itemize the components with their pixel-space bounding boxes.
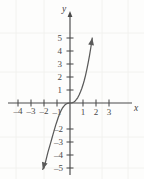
y-tick-label-3: 3 bbox=[58, 59, 63, 69]
x-tick-label-3: 3 bbox=[107, 107, 112, 117]
x-tick-label-neg3: –3 bbox=[26, 106, 37, 116]
y-tick-label-neg4: –4 bbox=[53, 150, 64, 160]
y-tick-label-1: 1 bbox=[58, 85, 63, 95]
cubic-curve bbox=[43, 38, 93, 169]
y-tick-label-5: 5 bbox=[58, 33, 63, 43]
y-tick-label-2: 2 bbox=[58, 72, 63, 82]
y-tick-label-neg3: –3 bbox=[53, 137, 64, 147]
curve-arrowhead-upper-right bbox=[88, 38, 94, 45]
x-tick-label-2: 2 bbox=[94, 107, 99, 117]
y-axis-label: y bbox=[61, 4, 67, 14]
x-tick-label-neg4: –4 bbox=[13, 106, 24, 116]
y-axis-arrowhead bbox=[68, 11, 73, 17]
x-axis-label: x bbox=[133, 103, 139, 113]
x-tick-label-1: 1 bbox=[81, 107, 86, 117]
x-tick-label-neg2: –2 bbox=[39, 106, 49, 116]
graph-canvas: –4 –3 –2 –1 1 2 3 5 4 3 2 1 –2 –3 –4 –5 … bbox=[0, 0, 144, 179]
cubic-function-figure: –4 –3 –2 –1 1 2 3 5 4 3 2 1 –2 –3 –4 –5 … bbox=[0, 0, 144, 179]
y-tick-label-4: 4 bbox=[58, 46, 63, 56]
y-tick-label-neg5: –5 bbox=[53, 163, 64, 173]
